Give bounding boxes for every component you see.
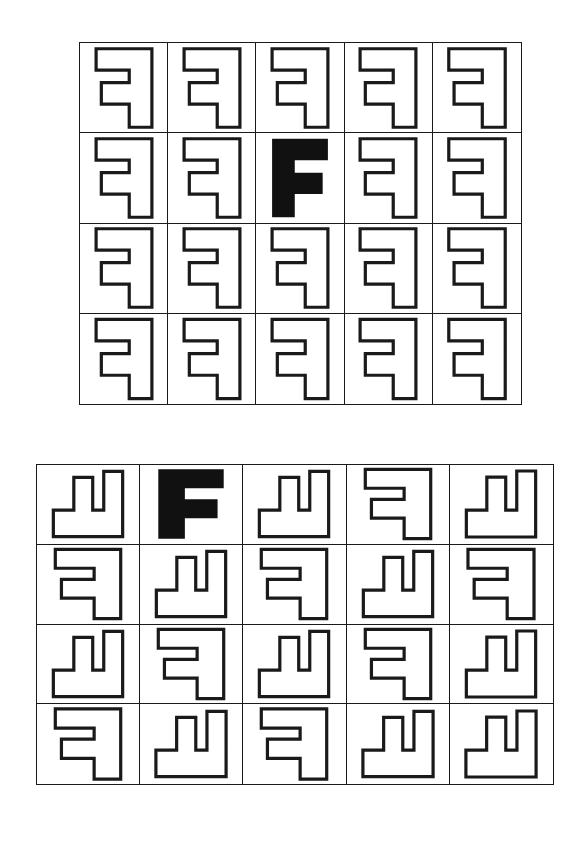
grid-cell-r3-c4[interactable] <box>347 625 450 705</box>
letter-f-outline <box>260 472 329 537</box>
letter-f-glyph <box>243 704 345 784</box>
letter-f-glyph <box>80 314 167 404</box>
letter-f-glyph <box>152 545 231 625</box>
letter-f-glyph <box>49 625 128 705</box>
letter-f-outline <box>449 48 505 127</box>
grid-cell-r3-c2[interactable] <box>140 625 243 705</box>
letter-f-outline <box>365 470 430 539</box>
grid-cell-r3-c1[interactable] <box>37 625 140 705</box>
letter-f-outline <box>365 629 430 698</box>
letter-f-glyph <box>168 314 255 404</box>
grid-cell-r4-c2[interactable] <box>140 704 243 784</box>
letter-f-glyph <box>256 224 343 313</box>
grid-cell-r3-c5[interactable] <box>433 224 521 314</box>
top-stimulus-grid <box>79 42 522 405</box>
letter-f-outline <box>55 549 120 618</box>
letter-f-outline <box>449 139 505 218</box>
letter-f-outline <box>96 229 152 308</box>
letter-f-glyph <box>80 43 167 132</box>
letter-f-glyph <box>450 545 553 624</box>
grid-cell-r4-c4[interactable] <box>347 704 450 784</box>
grid-cell-r4-c5[interactable] <box>450 704 553 784</box>
letter-f-glyph <box>358 704 438 784</box>
grid-cell-r1-c1[interactable] <box>37 465 140 545</box>
grid-cell-r2-c3[interactable] <box>256 133 344 223</box>
grid-cell-r2-c5[interactable] <box>433 133 521 223</box>
letter-f-outline <box>467 631 536 697</box>
letter-f-outline <box>96 48 152 127</box>
grid-cell-r1-c4[interactable] <box>345 43 433 133</box>
letter-f-glyph <box>347 465 449 544</box>
letter-f-outline <box>449 319 505 398</box>
letter-f-glyph <box>433 133 521 222</box>
letter-f-outline <box>360 48 416 127</box>
grid-cell-r1-c3[interactable] <box>256 43 344 133</box>
grid-cell-r2-c4[interactable] <box>345 133 433 223</box>
grid-cell-r3-c2[interactable] <box>168 224 256 314</box>
letter-f-outline <box>53 631 122 696</box>
grid-cell-r4-c1[interactable] <box>80 314 168 404</box>
grid-cell-r2-c1[interactable] <box>80 133 168 223</box>
letter-f-outline <box>184 319 240 398</box>
letter-f-outline <box>184 48 240 127</box>
grid-cell-r4-c3[interactable] <box>256 314 344 404</box>
letter-f-outline <box>262 549 327 618</box>
top-stimulus-panel <box>79 42 522 405</box>
grid-cell-r4-c4[interactable] <box>345 314 433 404</box>
letter-f-outline <box>53 472 122 537</box>
grid-cell-r3-c3[interactable] <box>243 625 346 705</box>
grid-cell-r3-c1[interactable] <box>80 224 168 314</box>
grid-cell-r4-c5[interactable] <box>433 314 521 404</box>
grid-cell-r2-c2[interactable] <box>168 133 256 223</box>
letter-f-outline <box>157 551 226 616</box>
letter-f-glyph <box>462 704 542 784</box>
letter-f-outline <box>262 709 327 779</box>
grid-cell-r2-c1[interactable] <box>37 545 140 625</box>
grid-cell-r1-c4[interactable] <box>347 465 450 545</box>
grid-cell-r4-c3[interactable] <box>243 704 346 784</box>
letter-f-outline <box>159 629 224 698</box>
letter-f-outline <box>184 139 240 218</box>
letter-f-glyph <box>151 704 231 784</box>
grid-cell-r2-c3[interactable] <box>243 545 346 625</box>
letter-f-glyph <box>168 133 255 222</box>
grid-cell-r3-c3[interactable] <box>256 224 344 314</box>
letter-f-glyph <box>256 43 343 132</box>
grid-cell-r3-c5[interactable] <box>450 625 553 705</box>
letter-f-outline <box>272 229 328 308</box>
grid-cell-r2-c2[interactable] <box>140 545 243 625</box>
letter-f-outline <box>272 48 328 127</box>
letter-f-glyph <box>347 625 449 704</box>
letter-f-glyph <box>80 133 167 222</box>
letter-f-glyph <box>256 314 343 404</box>
letter-f-outline <box>360 229 416 308</box>
letter-f-glyph <box>433 43 521 132</box>
grid-cell-r4-c2[interactable] <box>168 314 256 404</box>
bottom-stimulus-grid <box>36 464 554 785</box>
grid-cell-r1-c5[interactable] <box>433 43 521 133</box>
grid-cell-r3-c4[interactable] <box>345 224 433 314</box>
letter-f-outline <box>449 229 505 308</box>
grid-cell-r1-c2[interactable] <box>168 43 256 133</box>
letter-f-outline <box>363 551 432 616</box>
grid-cell-r1-c2[interactable] <box>140 465 243 545</box>
letter-f-outline <box>96 319 152 398</box>
letter-f-glyph <box>345 314 432 404</box>
letter-f-outline <box>159 470 224 539</box>
letter-f-glyph <box>345 43 432 132</box>
letter-f-glyph <box>49 465 128 545</box>
letter-f-outline <box>272 319 328 398</box>
grid-cell-r2-c5[interactable] <box>450 545 553 625</box>
bottom-stimulus-panel <box>36 464 554 785</box>
grid-cell-r1-c5[interactable] <box>450 465 553 545</box>
letter-f-outline <box>468 549 534 618</box>
letter-f-glyph <box>80 224 167 313</box>
grid-cell-r4-c1[interactable] <box>37 704 140 784</box>
grid-cell-r1-c3[interactable] <box>243 465 346 545</box>
letter-f-outline <box>96 139 152 218</box>
grid-cell-r2-c4[interactable] <box>347 545 450 625</box>
letter-f-outline <box>55 709 120 779</box>
letter-f-glyph <box>433 224 521 313</box>
letter-f-glyph <box>168 43 255 132</box>
grid-cell-r1-c1[interactable] <box>80 43 168 133</box>
